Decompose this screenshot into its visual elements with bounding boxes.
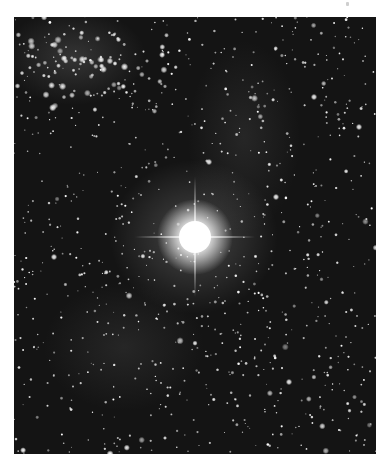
star-field-photo (14, 17, 376, 454)
star-field (14, 17, 376, 454)
margin-artifact (346, 2, 349, 6)
